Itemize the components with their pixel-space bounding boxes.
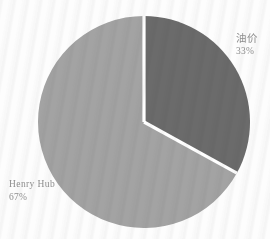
pie-label-oil-price-name: 油价 xyxy=(236,33,257,45)
pie-label-henry-hub: Henry Hub 67% xyxy=(9,179,55,203)
pie-chart-svg xyxy=(0,0,270,239)
pie-label-henry-hub-name: Henry Hub xyxy=(9,179,55,191)
pie-chart-figure: 油价 33% Henry Hub 67% xyxy=(0,0,270,239)
pie-label-oil-price-percent: 33% xyxy=(236,46,257,58)
pie-label-henry-hub-percent: 67% xyxy=(9,192,55,204)
pie-label-oil-price: 油价 33% xyxy=(236,33,257,57)
